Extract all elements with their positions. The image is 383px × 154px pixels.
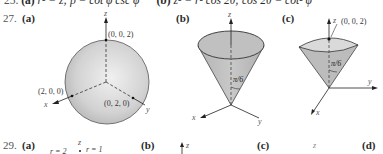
cone-b-z-label: z [227,10,232,19]
ex29-a-z-label: z [77,138,82,147]
ex29-c-z-label: z [312,141,317,150]
cone-c-point-top: (0, 0, 2) [341,17,367,26]
ex29-b-z-label: z [185,141,190,150]
sphere-point-y: (0, 2, 0) [104,99,130,108]
sphere-x-label: x [43,100,48,109]
cone-b-x-label: x [191,113,196,122]
sphere-figure: z (0, 0, 2) (2, 0, 0) x (0, 2, 0) y z π/… [0,0,383,154]
sphere-z-label: z [103,9,108,18]
exercise-29-part-a-label: (a) [22,139,35,151]
sphere-point-top: (0, 0, 2) [108,30,134,39]
cone-c-y-label: y [367,77,372,86]
sphere-y-label: y [145,105,150,114]
cone-c-z-label: z [332,16,337,25]
cone-b [198,18,264,118]
ex29-a-r2-label: r = 2 [50,147,67,154]
cone-c-x-label: x [315,108,320,117]
sphere-point-x: (2, 0, 0) [38,87,64,96]
cone-b-angle: π/6 [233,75,243,84]
ex29-a-r1-label: r = 1 [86,145,103,154]
exercise-29-part-b-label: (b) [141,139,154,151]
sphere [52,17,149,124]
exercise-29-part-d-label: (d) [362,139,375,151]
exercise-29-part-c-label: (c) [257,139,269,151]
cone-b-y-label: y [257,117,262,126]
exercise-29-number: 29. [3,139,17,151]
cone-c-angle: π/6 [331,59,341,68]
